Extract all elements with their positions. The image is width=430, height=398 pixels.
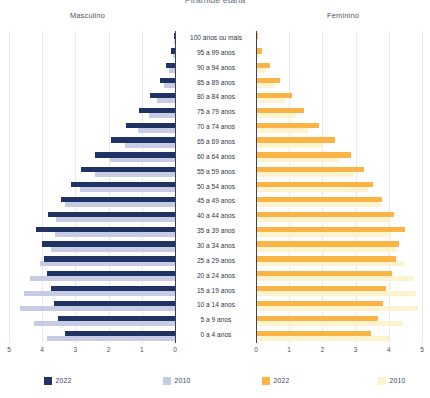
- bar-feminino-2022: [256, 108, 304, 113]
- bar-masculino-2010: [51, 247, 175, 252]
- bar-row: [9, 269, 175, 284]
- bar-row: [9, 239, 175, 254]
- bar-feminino-2010: [256, 276, 413, 281]
- bar-masculino-2022: [54, 301, 176, 306]
- bar-row: [256, 284, 422, 299]
- age-group-label: 100 anos ou mais: [176, 31, 256, 46]
- bar-row: [9, 313, 175, 328]
- bar-masculino-2010: [34, 321, 175, 326]
- legend-label: 2010: [175, 377, 191, 384]
- bar-feminino-2010: [256, 157, 339, 162]
- bar-masculino-2022: [111, 137, 175, 142]
- bar-row: [256, 254, 422, 269]
- bar-feminino-2010: [256, 98, 285, 103]
- bar-masculino-2022: [36, 227, 175, 232]
- age-group-label: 75 a 79 anos: [176, 105, 256, 120]
- bar-feminino-2022: [256, 197, 382, 202]
- bar-row: [9, 254, 175, 269]
- bar-row: [9, 105, 175, 120]
- age-group-label: 0 a 4 anos: [176, 328, 256, 343]
- age-group-label: 25 a 29 anos: [176, 254, 256, 269]
- bar-feminino-2010: [256, 321, 403, 326]
- age-group-label: 55 a 59 anos: [176, 165, 256, 180]
- gridline: [422, 31, 423, 343]
- age-group-label: 30 a 34 anos: [176, 239, 256, 254]
- axis-tick-label: 3: [74, 346, 78, 353]
- age-group-label: 50 a 54 anos: [176, 180, 256, 195]
- bar-feminino-2010: [256, 143, 323, 148]
- bar-masculino-2022: [166, 63, 175, 68]
- legend-item-masculino-2022[interactable]: 2022: [44, 377, 71, 385]
- bar-feminino-2022: [256, 167, 364, 172]
- bar-row: [256, 76, 422, 91]
- age-group-label: 65 a 69 anos: [176, 135, 256, 150]
- bar-feminino-2010: [256, 172, 354, 177]
- axis-tick-label: 2: [107, 346, 111, 353]
- axis-tick-label: 4: [387, 346, 391, 353]
- bar-feminino-2010: [256, 232, 391, 237]
- bar-row: [256, 90, 422, 105]
- age-group-label: 95 a 99 anos: [176, 46, 256, 61]
- legend-label: 2022: [274, 377, 290, 384]
- age-group-label: 90 a 94 anos: [176, 61, 256, 76]
- bar-row: [256, 150, 422, 165]
- age-group-label: 85 a 89 anos: [176, 76, 256, 91]
- bar-row: [9, 76, 175, 91]
- bar-row: [9, 328, 175, 343]
- axis-tick-label: 4: [40, 346, 44, 353]
- bar-masculino-2022: [126, 123, 175, 128]
- female-axis-spine: [256, 31, 257, 343]
- axis-tick-label: 5: [420, 346, 424, 353]
- legend-swatch-icon: [44, 377, 52, 385]
- chart-title: Pirâmide etária: [0, 0, 430, 5]
- bar-feminino-2010: [256, 336, 389, 341]
- bar-masculino-2022: [160, 78, 175, 83]
- bar-masculino-2022: [139, 108, 175, 113]
- bar-feminino-2022: [256, 123, 319, 128]
- bar-row: [256, 194, 422, 209]
- bar-feminino-2022: [256, 227, 405, 232]
- age-group-label: 15 a 19 anos: [176, 284, 256, 299]
- bar-masculino-2010: [65, 202, 175, 207]
- bar-row: [9, 31, 175, 46]
- age-group-label: 70 a 74 anos: [176, 120, 256, 135]
- axis-tick-label: 1: [287, 346, 291, 353]
- bar-feminino-2010: [256, 261, 404, 266]
- bar-masculino-2010: [55, 232, 175, 237]
- bar-feminino-2022: [256, 301, 383, 306]
- bar-feminino-2022: [256, 137, 335, 142]
- chart-title-clipped: Pirâmide etária: [0, 0, 430, 9]
- bar-masculino-2022: [81, 167, 175, 172]
- bar-feminino-2022: [256, 212, 394, 217]
- bar-row: [9, 120, 175, 135]
- bar-row: [256, 165, 422, 180]
- age-group-label: 20 a 24 anos: [176, 269, 256, 284]
- bar-masculino-2010: [20, 306, 175, 311]
- bar-row: [9, 224, 175, 239]
- female-plot-panel: [256, 31, 422, 343]
- bar-row: [9, 150, 175, 165]
- bar-masculino-2010: [47, 336, 175, 341]
- bar-masculino-2022: [95, 152, 175, 157]
- bar-row: [256, 239, 422, 254]
- bar-masculino-2010: [95, 172, 175, 177]
- bar-masculino-2010: [30, 276, 175, 281]
- bar-feminino-2010: [256, 83, 275, 88]
- bar-row: [256, 120, 422, 135]
- bar-masculino-2010: [138, 128, 175, 133]
- legend-item-masculino-2010[interactable]: 2010: [163, 377, 190, 385]
- legend-swatch-icon: [378, 377, 386, 385]
- bar-row: [256, 105, 422, 120]
- bar-row: [256, 298, 422, 313]
- bar-masculino-2022: [44, 256, 175, 261]
- bar-row: [256, 209, 422, 224]
- legend-item-feminino-2010[interactable]: 2010: [378, 377, 405, 385]
- panel-header-masculino: Masculino: [0, 11, 175, 20]
- legend-item-feminino-2022[interactable]: 2022: [262, 377, 289, 385]
- bar-masculino-2022: [65, 331, 175, 336]
- bar-masculino-2010: [56, 217, 175, 222]
- bar-row: [256, 313, 422, 328]
- age-group-label: 45 a 49 anos: [176, 194, 256, 209]
- bar-feminino-2022: [256, 286, 386, 291]
- bar-row: [256, 269, 422, 284]
